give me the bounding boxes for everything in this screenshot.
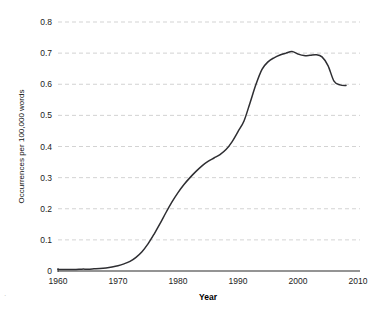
chart-canvas: 00.10.20.30.40.50.60.70.8 19601970198019… bbox=[0, 0, 384, 314]
line-chart: 00.10.20.30.40.50.60.70.8 19601970198019… bbox=[0, 0, 384, 314]
x-axis-tick-labels: 196019701980199020002010 bbox=[49, 276, 368, 286]
y-axis-tick-label: 0.7 bbox=[40, 48, 52, 58]
x-axis-tick-label: 2000 bbox=[289, 276, 308, 286]
x-axis-tick-label: 1960 bbox=[49, 276, 68, 286]
y-axis-tick-label: 0.2 bbox=[40, 204, 52, 214]
x-axis-tick-label: 1970 bbox=[109, 276, 128, 286]
y-axis-tick-label: 0.8 bbox=[40, 17, 52, 27]
x-axis-title: Year bbox=[199, 292, 218, 302]
y-axis-tick-label: 0.6 bbox=[40, 79, 52, 89]
x-axis-tick-label: 1990 bbox=[229, 276, 248, 286]
y-axis-tick-label: 0 bbox=[47, 266, 52, 276]
y-axis-tick-label: 0.1 bbox=[40, 235, 52, 245]
x-axis-tick-label: 1980 bbox=[169, 276, 188, 286]
y-axis-tick-labels: 00.10.20.30.40.50.60.70.8 bbox=[40, 17, 52, 276]
y-axis-tick-label: 0.4 bbox=[40, 142, 52, 152]
y-axis-title: Occurrences per 100,000 words bbox=[17, 90, 26, 204]
corner-artifact: · bbox=[4, 292, 6, 299]
y-axis-tick-label: 0.5 bbox=[40, 110, 52, 120]
x-axis-tick-label: 2010 bbox=[349, 276, 368, 286]
y-axis-tick-label: 0.3 bbox=[40, 173, 52, 183]
